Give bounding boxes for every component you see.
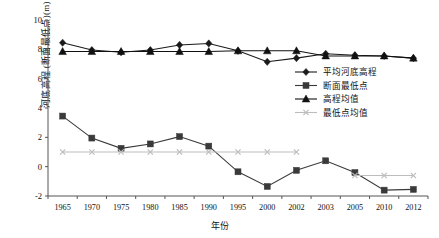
data-point-square [235,169,241,175]
legend: 平均河底高程断面最低点高程均值最低点均值 [295,66,377,118]
plot-area: -202468101965197019751980198519901995200… [0,0,439,238]
y-tick-label: 2 [38,132,42,142]
data-point-square [381,187,387,193]
series-line [63,116,414,190]
y-tick-label: 10 [34,15,43,25]
x-tick-label: 1985 [171,203,187,212]
data-point-square [60,113,66,119]
x-tick-label: 2005 [347,203,363,212]
data-point-square [89,135,95,141]
x-tick-label: 1975 [113,203,129,212]
data-point-diamond [59,39,65,46]
y-tick-label: 4 [38,103,43,113]
chart-figure: 河底高程 (断面最低点)(m) 年份 -20246810196519701975… [0,0,439,238]
y-tick-label: -2 [35,191,42,201]
data-point-square [177,134,183,140]
series-1 [60,113,417,193]
x-tick-label: 1990 [201,203,217,212]
x-tick-label: 1995 [230,203,246,212]
legend-label: 最低点均值 [323,107,368,118]
legend-label: 平均河底高程 [323,66,377,77]
data-point-square [147,141,153,147]
data-point-square [303,83,309,89]
x-tick-label: 2003 [318,203,334,212]
legend-label: 断面最低点 [323,80,368,91]
x-tick-label: 1970 [84,203,100,212]
data-point-diamond [293,55,299,62]
x-tick-label: 2000 [259,203,275,212]
x-tick-label: 2002 [288,203,304,212]
data-point-square [323,158,329,164]
data-point-diamond [303,68,309,75]
x-tick-label: 1980 [142,203,158,212]
data-point-diamond [206,40,212,47]
series-2 [59,47,417,61]
data-point-square [293,167,299,173]
y-tick-label: 0 [38,162,42,172]
x-tick-label: 2010 [376,203,392,212]
y-tick-label: 6 [38,74,42,84]
x-tick-label: 1965 [54,203,70,212]
y-tick-label: 8 [38,44,42,54]
x-tick-label: 2012 [405,203,421,212]
legend-label: 高程均值 [323,93,359,104]
data-point-square [410,186,416,192]
data-point-diamond [264,58,270,65]
data-point-square [264,183,270,189]
data-point-square [206,143,212,149]
